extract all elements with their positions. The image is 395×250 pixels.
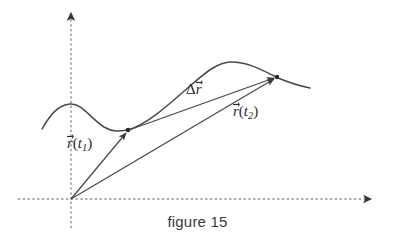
r-symbol-with-arrow: r xyxy=(233,104,239,119)
point-marker-t2 xyxy=(275,75,279,79)
r-symbol-delta: r xyxy=(196,81,202,97)
vector-r-t2 xyxy=(71,79,274,199)
figure-15-diagram: r (t1) Δ r r xyxy=(0,0,395,250)
r-symbol-t1: r xyxy=(67,135,73,151)
axes-group xyxy=(18,16,368,228)
point-marker-t1 xyxy=(126,128,131,133)
trajectory-curve-group xyxy=(42,62,310,131)
trajectory-curve xyxy=(42,62,310,131)
vector-label-r-t2: r (t2) xyxy=(233,104,258,122)
delta-symbol: Δ xyxy=(186,81,196,97)
r-symbol-with-arrow: r xyxy=(67,136,73,151)
vectors-group xyxy=(71,78,274,199)
paren-close-t1: ) xyxy=(87,135,92,151)
vector-label-delta-r: Δ r xyxy=(186,82,202,97)
figure-caption: figure 15 xyxy=(0,213,395,230)
delta-r-symbol-with-arrow: r xyxy=(196,82,202,97)
r-symbol-t2: r xyxy=(233,103,239,119)
vector-label-r-t1: r (t1) xyxy=(67,136,92,154)
paren-close-t2: ) xyxy=(253,103,258,119)
